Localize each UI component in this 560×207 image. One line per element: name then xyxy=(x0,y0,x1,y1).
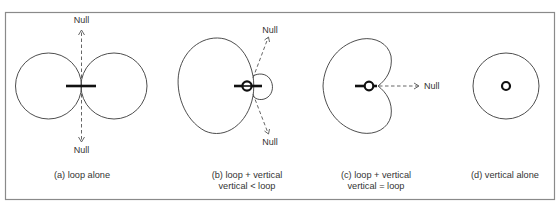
caption-c-line1: (c) loop + vertical xyxy=(341,170,411,180)
caption-c-line2: vertical = loop xyxy=(348,181,405,191)
null-arrow-upper xyxy=(253,38,268,78)
panel-c-vertical-equals-loop: Null (c) loop + vertical vertical = loop xyxy=(323,39,440,191)
null-label-lower: Null xyxy=(262,137,278,147)
antenna-pattern-diagram: Null Null (a) loop alone Null Null (b) l… xyxy=(0,0,560,207)
caption-b-line1: (b) loop + vertical xyxy=(212,170,283,180)
caption-b-line2: vertical < loop xyxy=(219,181,276,191)
vertical-antenna-icon xyxy=(365,82,374,91)
caption-d: (d) vertical alone xyxy=(471,170,539,180)
null-label-top: Null xyxy=(74,15,90,25)
panel-a-loop-alone: Null Null (a) loop alone xyxy=(16,15,148,180)
panel-b-vertical-less-than-loop: Null Null (b) loop + vertical vertical <… xyxy=(178,25,282,191)
vertical-antenna-icon xyxy=(502,82,510,90)
null-label-right: Null xyxy=(424,81,440,91)
null-label-bottom: Null xyxy=(74,145,90,155)
caption-a: (a) loop alone xyxy=(54,170,110,180)
null-label-upper: Null xyxy=(262,25,278,35)
panel-d-vertical-alone: (d) vertical alone xyxy=(471,53,539,180)
